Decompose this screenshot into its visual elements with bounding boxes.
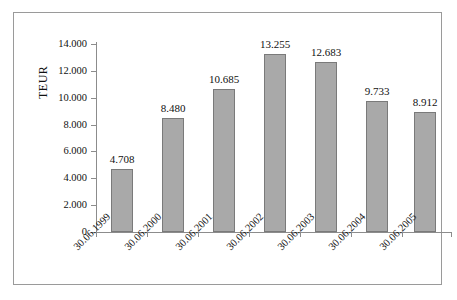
y-tick-label: 8.000 bbox=[43, 120, 87, 131]
y-tick-mark bbox=[91, 44, 96, 45]
chart-figure: TEUR 0 2.000 4.000 6.000 8.000 10.000 12… bbox=[0, 0, 457, 300]
y-tick-label: 4.000 bbox=[43, 173, 87, 184]
y-tick-mark bbox=[91, 151, 96, 152]
bar-value-label: 4.708 bbox=[98, 154, 146, 165]
bar-value-label: 13.255 bbox=[248, 39, 302, 50]
y-tick-label: 12.000 bbox=[43, 66, 87, 77]
bar-2002[interactable] bbox=[264, 54, 286, 232]
bar-value-label: 12.683 bbox=[299, 47, 353, 58]
bar-2000[interactable] bbox=[162, 118, 184, 232]
bar-2004[interactable] bbox=[366, 101, 388, 232]
bar-2005[interactable] bbox=[414, 112, 436, 232]
y-tick-label: 14.000 bbox=[43, 39, 87, 50]
y-tick-label: 6.000 bbox=[43, 146, 87, 157]
y-tick-label: 10.000 bbox=[43, 93, 87, 104]
bar-value-label: 10.685 bbox=[197, 74, 251, 85]
bar-2003[interactable] bbox=[315, 62, 337, 232]
bar-value-label: 8.480 bbox=[149, 103, 197, 114]
y-tick-mark bbox=[91, 178, 96, 179]
y-tick-label: 2.000 bbox=[43, 200, 87, 211]
y-tick-mark bbox=[91, 98, 96, 99]
bar-2001[interactable] bbox=[213, 89, 235, 232]
chart-frame: TEUR 0 2.000 4.000 6.000 8.000 10.000 12… bbox=[13, 12, 442, 285]
bar-value-label: 8.912 bbox=[401, 97, 449, 108]
y-tick-mark bbox=[91, 205, 96, 206]
y-tick-mark bbox=[91, 125, 96, 126]
bar-value-label: 9.733 bbox=[353, 86, 401, 97]
x-tick-mark bbox=[451, 232, 452, 237]
y-tick-mark bbox=[91, 71, 96, 72]
bar-1999[interactable] bbox=[111, 169, 133, 232]
y-axis-line bbox=[96, 42, 97, 233]
